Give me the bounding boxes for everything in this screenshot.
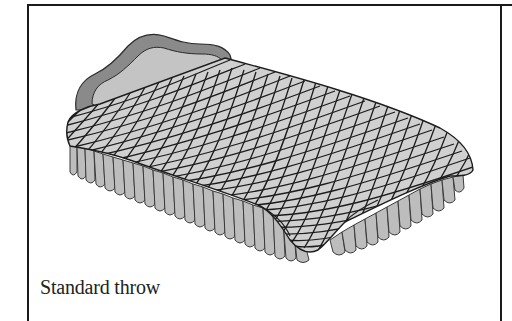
bed-illustration [0, 0, 512, 321]
figure-caption: Standard throw [40, 276, 160, 299]
